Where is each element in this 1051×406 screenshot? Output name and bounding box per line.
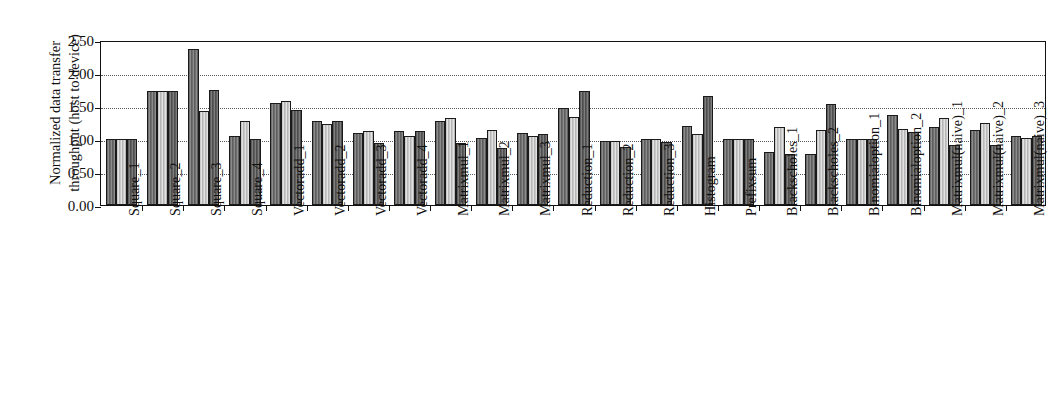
x-tick-label: Matrixmul(naive)_1 [949, 101, 966, 216]
bar [569, 117, 579, 205]
x-tick-label: Square_1 [126, 162, 143, 216]
y-tick-label: 2.00 [68, 66, 94, 83]
x-tick-label: Matrixmul_3 [537, 141, 554, 216]
x-tick-label: Square_4 [249, 162, 266, 216]
plot-area [100, 41, 1046, 206]
x-tick-label: Square_2 [167, 162, 184, 216]
bar [106, 139, 116, 205]
bar [692, 134, 702, 205]
x-tick-label: Matrixmul_2 [496, 141, 513, 216]
x-tick-label: Reduction_1 [579, 143, 596, 216]
plot-inner [101, 42, 1045, 205]
bar [476, 138, 486, 205]
y-tick-label: 0.50 [68, 165, 94, 182]
bar [764, 152, 774, 205]
x-tick-label: Matrixmul_1 [455, 141, 472, 216]
bar [723, 139, 733, 205]
x-tick-label: Vectoradd_4 [414, 144, 431, 216]
x-tick-label: Matrixmul(naive)_3 [1031, 101, 1048, 216]
bar [846, 139, 856, 205]
y-tick-label: 1.00 [68, 132, 94, 149]
bar [517, 133, 527, 205]
bar [147, 91, 157, 205]
bar [558, 108, 568, 205]
bar [270, 103, 280, 205]
x-tick-label: Blackscholes_2 [825, 127, 842, 216]
bar [322, 124, 332, 205]
bar [600, 141, 610, 205]
bar [281, 101, 291, 205]
bar [394, 131, 404, 205]
bar [188, 49, 198, 205]
bar [980, 123, 990, 206]
y-axis-title: Normalized data transfer throughput (hos… [0, 0, 52, 230]
x-tick-label: Vectoradd_2 [332, 144, 349, 216]
x-axis-tick-labels: Square_1Square_2Square_3Square_4Vectorad… [100, 206, 1046, 406]
bar [929, 127, 939, 205]
y-axis-tick-labels: 0.000.501.001.502.002.50 [52, 40, 98, 216]
bar [651, 139, 661, 205]
bar [229, 136, 239, 205]
chart-figure: Normalized data transfer throughput (hos… [0, 0, 1051, 406]
x-tick-label: Prefixsum [743, 158, 760, 216]
x-tick-label: Square_3 [208, 162, 225, 216]
y-tick-label: 2.50 [68, 33, 94, 50]
bar [312, 121, 322, 205]
bar [682, 126, 692, 205]
x-tick-label: Reduction_3 [661, 143, 678, 216]
x-tick-label: Matrixmul(naive)_2 [990, 101, 1007, 216]
x-tick-label: Vectoradd_3 [373, 144, 390, 216]
y-tick-label: 1.50 [68, 99, 94, 116]
bar [898, 129, 908, 205]
bar [353, 133, 363, 205]
y-tick-label: 0.00 [68, 198, 94, 215]
bar [1011, 136, 1021, 205]
bar [363, 131, 373, 205]
bar [970, 130, 980, 205]
x-tick-label: Vectoradd_1 [291, 144, 308, 216]
x-tick-label: Reduction_2 [620, 143, 637, 216]
bar [939, 118, 949, 205]
x-tick-label: Blackscholes_1 [784, 127, 801, 216]
bar [887, 115, 897, 205]
bar [805, 154, 815, 205]
bar [435, 121, 445, 205]
bar [641, 139, 651, 205]
bar [610, 141, 620, 205]
x-tick-label: Binomialoption_1 [866, 113, 883, 216]
x-tick-label: Binomialoption_2 [908, 113, 925, 216]
x-tick-label: Histogram [702, 156, 719, 216]
